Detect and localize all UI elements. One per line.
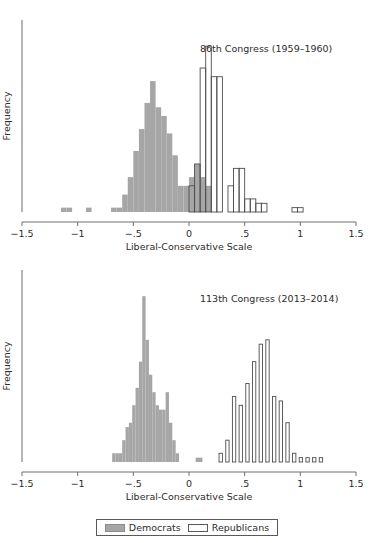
histogram-bar <box>172 440 175 462</box>
histogram-bar <box>166 392 169 462</box>
histogram-bar <box>232 397 235 462</box>
x-tick-label: .5 <box>240 478 249 489</box>
histogram-bar <box>67 208 73 212</box>
histogram-bar <box>313 458 316 462</box>
x-tick-label: 1.5 <box>348 228 363 239</box>
histogram-bar <box>162 410 165 462</box>
y-axis-title: Frequency <box>1 341 12 390</box>
histogram-bar <box>273 397 276 462</box>
x-axis-title: Liberal-Conservative Scale <box>126 491 253 500</box>
x-tick-label: .5 <box>240 228 249 239</box>
histogram-bar <box>266 340 269 462</box>
histogram-bar <box>261 203 267 212</box>
x-tick-label: 1 <box>297 478 303 489</box>
histogram-bar <box>299 458 302 462</box>
histogram-bar <box>217 77 223 212</box>
legend-label-republicans: Republicans <box>212 523 269 533</box>
histogram-bar <box>122 440 125 462</box>
x-axis-title: Liberal-Conservative Scale <box>126 241 253 250</box>
bar-series-republicans <box>219 340 323 462</box>
histogram-bar <box>298 208 304 212</box>
histogram-bar <box>139 129 145 212</box>
legend-item-democrats: Democrats <box>105 523 181 533</box>
histogram-bar <box>128 177 134 212</box>
histogram-bar <box>167 133 173 212</box>
histogram-bar <box>144 103 150 212</box>
histogram-bar <box>111 208 117 212</box>
histogram-bar <box>172 155 178 212</box>
histogram-bar <box>200 177 206 212</box>
histogram-bar <box>286 423 289 462</box>
histogram-bar <box>183 186 189 212</box>
histogram-bar <box>250 199 256 212</box>
histogram-bar <box>116 453 119 462</box>
histogram-bar <box>156 107 162 212</box>
histogram-bar <box>293 453 296 462</box>
panel-title: 113th Congress (2013–2014) <box>200 293 338 304</box>
histogram-bar <box>86 208 92 212</box>
histogram-bar <box>211 77 217 212</box>
histogram-bar <box>279 401 282 462</box>
histogram-bar <box>146 340 149 462</box>
histogram-bar <box>176 453 179 462</box>
histogram-congress-86: Frequency−1.5−1−.50.511.5Liberal-Conserv… <box>0 0 373 250</box>
histogram-bar <box>126 427 129 462</box>
histogram-bar <box>196 458 199 462</box>
histogram-bar <box>239 168 245 212</box>
histogram-bar <box>199 458 202 462</box>
panel-title: 86th Congress (1959–1960) <box>200 43 332 54</box>
histogram-bar <box>252 362 255 462</box>
x-tick-label: −1.5 <box>10 478 33 489</box>
x-tick-label: −1.5 <box>10 228 33 239</box>
histogram-bar <box>245 199 251 212</box>
histogram-bar <box>132 405 135 462</box>
bar-series-republicans <box>189 46 303 212</box>
histogram-bar <box>136 388 139 462</box>
chart-panel-113th-congress: Frequency−1.5−1−.50.511.5Liberal-Conserv… <box>0 250 373 500</box>
histogram-bar <box>239 405 242 462</box>
histogram-bar <box>246 383 249 462</box>
histogram-bar <box>61 208 67 212</box>
x-tick-label: 0 <box>186 478 192 489</box>
histogram-bar <box>117 208 123 212</box>
histogram-bar <box>226 440 229 462</box>
legend-label-democrats: Democrats <box>129 523 181 533</box>
chart-panel-86th-congress: Frequency−1.5−1−.50.511.5Liberal-Conserv… <box>0 0 373 250</box>
x-tick-label: 1.5 <box>348 478 363 489</box>
histogram-bar <box>112 453 115 462</box>
x-tick-label: −.5 <box>125 478 142 489</box>
bar-series-democrats <box>112 296 202 462</box>
histogram-bar <box>152 392 155 462</box>
histogram-bar <box>122 195 128 212</box>
histogram-bar <box>133 151 139 212</box>
histogram-bar <box>292 208 298 212</box>
histogram-bar <box>150 81 156 212</box>
y-axis-title: Frequency <box>1 91 12 140</box>
x-tick-label: −1 <box>71 228 85 239</box>
histogram-bar <box>189 177 195 212</box>
x-tick-label: −.5 <box>125 228 142 239</box>
histogram-bar <box>169 423 172 462</box>
legend-region: Democrats Republicans <box>0 500 373 543</box>
histogram-bar <box>219 453 222 462</box>
histogram-congress-113: Frequency−1.5−1−.50.511.5Liberal-Conserv… <box>0 250 373 500</box>
chart-legend: Democrats Republicans <box>96 519 278 536</box>
histogram-bar <box>256 203 262 212</box>
histogram-bar <box>234 168 240 212</box>
histogram-bar <box>149 375 152 462</box>
histogram-bar <box>139 362 142 462</box>
histogram-bar <box>206 186 212 212</box>
figure-root: Frequency−1.5−1−.50.511.5Liberal-Conserv… <box>0 0 373 543</box>
histogram-bar <box>178 186 184 212</box>
x-tick-label: −1 <box>71 478 85 489</box>
x-tick-label: 0 <box>186 228 192 239</box>
legend-item-republicans: Republicans <box>188 523 269 533</box>
histogram-bar <box>259 344 262 462</box>
histogram-bar <box>159 410 162 462</box>
histogram-bar <box>156 405 159 462</box>
legend-swatch-republicans-icon <box>188 524 208 532</box>
x-tick-label: 1 <box>297 228 303 239</box>
histogram-bar <box>119 453 122 462</box>
histogram-bar <box>195 164 201 212</box>
histogram-bar <box>129 423 132 462</box>
